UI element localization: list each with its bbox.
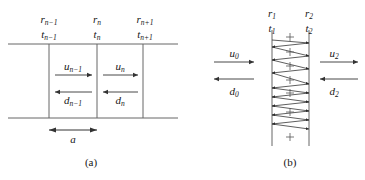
internal-reflection-path bbox=[272, 40, 309, 129]
interior-plus-marks bbox=[286, 33, 294, 141]
label-t-n-minus-1: tn−1 bbox=[41, 29, 57, 40]
label-r-n: rn bbox=[93, 14, 101, 25]
label-d0: d0 bbox=[229, 86, 238, 97]
panel-b: r1 t1 r2 t2 u0 d0 u2 d2 (b) bbox=[182, 0, 365, 180]
label-u2: u2 bbox=[329, 48, 338, 59]
panel-a-graphics bbox=[0, 0, 182, 180]
label-thickness-a: a bbox=[70, 134, 76, 145]
label-u-n-minus-1: un−1 bbox=[64, 61, 82, 72]
figure-container: rn−1 tn−1 rn tn rn+1 tn+1 un−1 dn−1 un d… bbox=[0, 0, 365, 180]
panel-a: rn−1 tn−1 rn tn rn+1 tn+1 un−1 dn−1 un d… bbox=[0, 0, 182, 180]
label-t2: t2 bbox=[306, 23, 313, 34]
label-t1: t1 bbox=[269, 23, 276, 34]
label-r-n-minus-1: rn−1 bbox=[41, 14, 58, 25]
label-u0: u0 bbox=[229, 48, 238, 59]
label-d2: d2 bbox=[329, 86, 338, 97]
label-r2: r2 bbox=[305, 8, 313, 19]
label-r1: r1 bbox=[268, 8, 276, 19]
label-u-n: un bbox=[115, 61, 124, 72]
label-d-n: dn bbox=[115, 95, 124, 106]
label-t-n: tn bbox=[94, 29, 101, 40]
label-r-n-plus-1: rn+1 bbox=[137, 14, 154, 25]
label-t-n-plus-1: tn+1 bbox=[137, 29, 153, 40]
caption-panel-b: (b) bbox=[284, 156, 297, 168]
label-d-n-minus-1: dn−1 bbox=[64, 95, 82, 106]
caption-panel-a: (a) bbox=[85, 156, 97, 168]
